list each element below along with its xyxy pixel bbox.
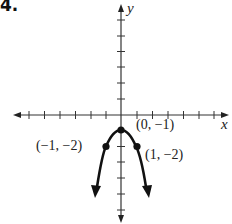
vertex-point-label: (0, −1) [136, 117, 174, 133]
point-vertex [117, 126, 124, 133]
point-left [102, 143, 109, 150]
left-point-label: (−1, −2) [36, 138, 82, 154]
point-right [133, 143, 140, 150]
x-axis-label: x [221, 116, 228, 133]
arrow-right-end-icon [142, 185, 152, 198]
y-axis-label: y [127, 0, 134, 17]
right-point-label: (1, −2) [145, 147, 183, 163]
y-axis [117, 4, 125, 223]
arrow-left-end-icon [91, 185, 101, 198]
parabola-graph [0, 0, 232, 224]
